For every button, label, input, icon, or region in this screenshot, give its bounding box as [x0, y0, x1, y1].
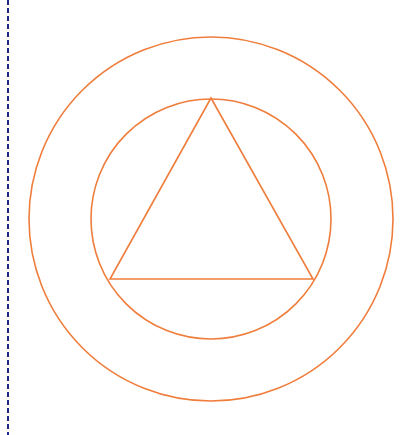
diagram-canvas: [0, 0, 416, 435]
inscribed-triangle: [110, 98, 313, 279]
outer-circle: [29, 37, 393, 401]
inner-circle: [91, 99, 331, 339]
